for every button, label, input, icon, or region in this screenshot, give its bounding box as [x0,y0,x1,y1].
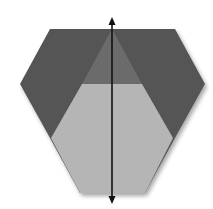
origami-diagram [0,0,213,209]
